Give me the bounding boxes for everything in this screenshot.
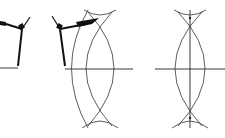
panel-step-3: [155, 10, 225, 128]
panel-step-2: [52, 10, 133, 128]
compass-icon: [0, 17, 30, 66]
intersection-point-bottom: [189, 117, 191, 119]
panel-step-1: [0, 17, 30, 68]
construction-diagram: [0, 0, 225, 138]
diagram-canvas: [0, 0, 225, 138]
intersection-point-top: [189, 17, 191, 19]
